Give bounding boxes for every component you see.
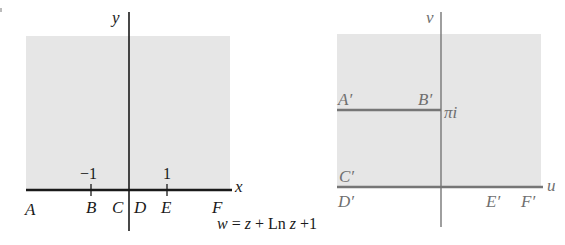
v-axis-label: v bbox=[426, 9, 434, 26]
point-label-e: E bbox=[161, 199, 171, 216]
formula-plus-one: +1 bbox=[296, 215, 317, 232]
point-label-a: A bbox=[25, 201, 35, 218]
point-label-f: F bbox=[212, 199, 222, 216]
formula-ln: + Ln bbox=[251, 215, 290, 232]
pi-i-label: πi bbox=[444, 104, 457, 121]
u-axis-label: u bbox=[547, 177, 556, 194]
tick-label-one: 1 bbox=[163, 166, 171, 182]
point-label-c-prime: C′ bbox=[339, 168, 354, 185]
point-label-e-prime: E′ bbox=[486, 193, 500, 210]
point-label-d-prime: D′ bbox=[338, 193, 354, 210]
tick-label-neg-one: −1 bbox=[80, 166, 97, 182]
point-label-a-prime: A′ bbox=[338, 91, 352, 108]
z-plane-shaded-region bbox=[26, 36, 230, 190]
point-label-d: D bbox=[134, 199, 146, 216]
x-axis-label: x bbox=[235, 178, 243, 195]
mapping-formula: w = z + Ln z +1 bbox=[217, 216, 317, 232]
y-axis-label: y bbox=[112, 9, 120, 26]
point-label-b: B bbox=[86, 199, 96, 216]
point-label-b-prime: B′ bbox=[418, 91, 432, 108]
formula-w: w bbox=[217, 215, 228, 232]
point-label-c: C bbox=[112, 199, 123, 216]
mapping-diagram bbox=[0, 0, 565, 245]
formula-eq: = bbox=[228, 215, 245, 232]
point-label-f-prime: F′ bbox=[521, 193, 535, 210]
